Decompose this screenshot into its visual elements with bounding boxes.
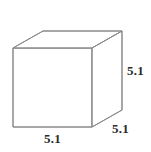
dimension-label-width: 5.1 — [44, 132, 61, 145]
cube-front-face — [13, 48, 92, 127]
dimension-label-depth: 5.1 — [112, 122, 129, 135]
cube-figure: 5.1 5.1 5.1 — [0, 0, 151, 152]
dimension-label-height: 5.1 — [127, 64, 144, 77]
